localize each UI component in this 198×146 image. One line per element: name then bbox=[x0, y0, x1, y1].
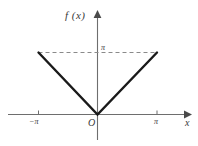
x-axis-label: x bbox=[185, 118, 189, 128]
tick-label-neg-pi: −π bbox=[29, 118, 38, 126]
y-axis-arrowhead bbox=[94, 10, 102, 18]
origin-label: O bbox=[88, 118, 95, 128]
value-label-pi: π bbox=[101, 44, 105, 52]
math-figure: f (x) x O −π π π bbox=[0, 0, 198, 146]
tick-label-pos-pi: π bbox=[154, 118, 158, 126]
y-axis-label: f (x) bbox=[65, 10, 86, 21]
